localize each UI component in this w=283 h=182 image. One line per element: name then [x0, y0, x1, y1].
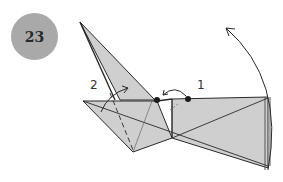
label-1: 1	[197, 78, 205, 92]
reference-dot-right	[185, 96, 191, 102]
origami-diagram	[0, 0, 283, 182]
reference-dot-left	[154, 97, 160, 103]
arrow-1-icon	[163, 90, 186, 96]
left-body	[83, 101, 172, 152]
label-2: 2	[90, 78, 98, 92]
right-body	[172, 97, 268, 168]
